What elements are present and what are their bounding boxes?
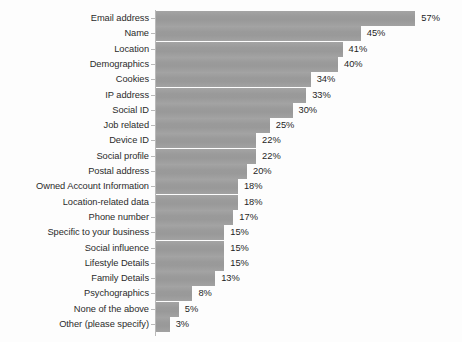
bar <box>156 195 238 210</box>
category-label: Email address <box>1 11 149 26</box>
bar-value-label: 33% <box>312 88 331 103</box>
bar-value-label: 41% <box>349 42 368 57</box>
bar-row: IP address33% <box>0 88 462 103</box>
axis-tick <box>151 217 155 218</box>
category-label: IP address <box>1 88 149 103</box>
plot-area: Email address57%Name45%Location41%Demogr… <box>0 0 462 342</box>
bar <box>156 149 256 164</box>
bar-value-label: 34% <box>317 72 336 87</box>
bar-value-label: 40% <box>344 57 363 72</box>
bar-value-label: 45% <box>367 26 386 41</box>
bar <box>156 26 361 41</box>
bar-row: Location-related data18% <box>0 195 462 210</box>
bar-row: Location41% <box>0 42 462 57</box>
category-label: Demographics <box>1 57 149 72</box>
axis-tick <box>151 232 155 233</box>
axis-tick <box>151 156 155 157</box>
axis-tick <box>151 202 155 203</box>
bar-row: Demographics40% <box>0 57 462 72</box>
axis-tick <box>151 171 155 172</box>
bar-row: Social profile22% <box>0 149 462 164</box>
bar-row: Device ID22% <box>0 133 462 148</box>
bar-value-label: 8% <box>198 286 211 301</box>
category-label: Specific to your business <box>1 225 149 240</box>
bar <box>156 103 293 118</box>
bar-value-label: 3% <box>176 317 189 332</box>
bar-value-label: 18% <box>244 195 263 210</box>
bar-value-label: 18% <box>244 179 263 194</box>
bar-row: Owned Account Information18% <box>0 179 462 194</box>
bar-value-label: 17% <box>239 210 258 225</box>
bar-value-label: 20% <box>253 164 272 179</box>
axis-tick <box>151 293 155 294</box>
bar <box>156 11 415 26</box>
bar-row: Psychographics8% <box>0 286 462 301</box>
category-label: Psychographics <box>1 286 149 301</box>
bar <box>156 210 233 225</box>
axis-tick <box>151 125 155 126</box>
bar <box>156 88 306 103</box>
bar-row: Email address57% <box>0 11 462 26</box>
category-label: Lifestyle Details <box>1 256 149 271</box>
category-label: Social influence <box>1 241 149 256</box>
bar-value-label: 5% <box>185 302 198 317</box>
category-label: Other (please specify) <box>1 317 149 332</box>
bar-value-label: 13% <box>221 271 240 286</box>
axis-tick <box>151 18 155 19</box>
bar <box>156 57 338 72</box>
bar <box>156 179 238 194</box>
bar <box>156 241 224 256</box>
bar <box>156 164 247 179</box>
bar-row: Social ID30% <box>0 103 462 118</box>
bar-value-label: 15% <box>230 256 249 271</box>
bar-row: Social influence15% <box>0 241 462 256</box>
bar <box>156 118 270 133</box>
axis-tick <box>151 95 155 96</box>
bar-row: Other (please specify)3% <box>0 317 462 332</box>
category-label: Family Details <box>1 271 149 286</box>
bar-chart: Email address57%Name45%Location41%Demogr… <box>0 0 462 342</box>
axis-tick <box>151 248 155 249</box>
axis-tick <box>151 186 155 187</box>
bar <box>156 286 192 301</box>
bar-row: Family Details13% <box>0 271 462 286</box>
category-label: Social ID <box>1 103 149 118</box>
bar <box>156 256 224 271</box>
axis-tick <box>151 140 155 141</box>
bar-value-label: 30% <box>299 103 318 118</box>
category-label: None of the above <box>1 302 149 317</box>
category-label: Location <box>1 42 149 57</box>
axis-tick <box>151 33 155 34</box>
bar-row: Specific to your business15% <box>0 225 462 240</box>
bar-value-label: 15% <box>230 225 249 240</box>
axis-tick <box>151 263 155 264</box>
bar <box>156 133 256 148</box>
bar <box>156 72 311 87</box>
bar <box>156 225 224 240</box>
bar-value-label: 15% <box>230 241 249 256</box>
axis-tick <box>151 79 155 80</box>
axis-tick <box>151 278 155 279</box>
bar-row: Phone number17% <box>0 210 462 225</box>
bar <box>156 42 343 57</box>
category-label: Cookies <box>1 72 149 87</box>
bar <box>156 302 179 317</box>
category-label: Job related <box>1 118 149 133</box>
bar-row: Cookies34% <box>0 72 462 87</box>
axis-tick <box>151 110 155 111</box>
bar-row: None of the above5% <box>0 302 462 317</box>
bar-row: Postal address20% <box>0 164 462 179</box>
category-label: Device ID <box>1 133 149 148</box>
axis-tick <box>151 64 155 65</box>
axis-tick <box>151 324 155 325</box>
axis-tick <box>151 49 155 50</box>
bar <box>156 317 170 332</box>
bar-row: Job related25% <box>0 118 462 133</box>
category-label: Postal address <box>1 164 149 179</box>
bar-row: Name45% <box>0 26 462 41</box>
category-label: Owned Account Information <box>1 179 149 194</box>
axis-tick <box>151 309 155 310</box>
bar-row: Lifestyle Details15% <box>0 256 462 271</box>
bar-value-label: 57% <box>421 11 440 26</box>
category-label: Phone number <box>1 210 149 225</box>
